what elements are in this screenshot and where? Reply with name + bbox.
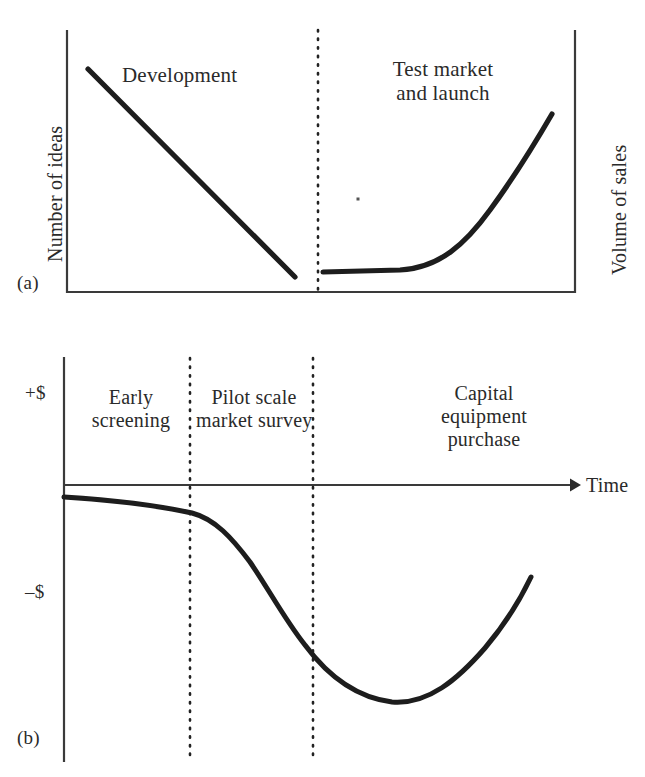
panel-a-left-axis-label: Number of ideas [44,126,67,262]
stage-label-test-market-and-launch: Test market and launch [372,57,514,105]
figure-container: Number of ideas Volume of sales (a) Deve… [0,0,645,777]
stage-label-capital-equipment-purchase: Capital equipment purchase [400,382,568,451]
panel-b-tag: (b) [17,727,40,749]
volume-of-sales-curve [323,114,552,272]
panel-b-x-axis-label: Time [586,474,628,497]
stage-label-pilot-scale-market-survey: Pilot scale market survey [196,386,312,432]
number-of-ideas-line [88,69,295,277]
stray-speck [357,198,360,201]
panel-a-right-axis-label: Volume of sales [608,145,631,275]
panel-b-positive-axis-label: +$ [25,382,46,404]
panel-b-negative-axis-label: –$ [25,581,44,603]
stage-label-early-screening: Early screening [76,386,186,432]
cumulative-cash-flow-curve [64,497,531,702]
stage-label-development: Development [122,63,237,87]
time-arrowhead-icon [570,479,581,492]
panel-a-tag: (a) [17,272,39,294]
